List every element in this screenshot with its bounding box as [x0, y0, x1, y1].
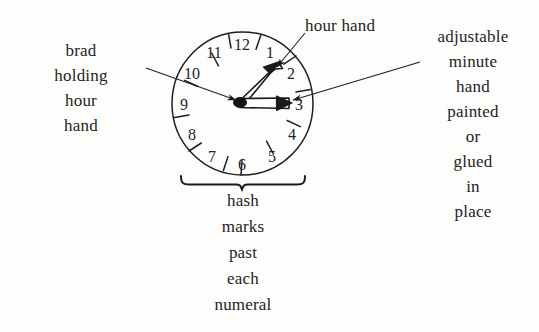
hash-mark — [296, 90, 310, 93]
label-brad-line-1: brad — [22, 42, 140, 67]
label-adjustable-line-6: glued — [412, 153, 534, 178]
clock-numeral-10: 10 — [184, 65, 200, 83]
clock-numeral-8: 8 — [188, 126, 196, 144]
label-hash-line-2: marks — [183, 218, 303, 244]
clock-numeral-11: 11 — [206, 44, 221, 62]
label-adjustable-line-4: painted — [412, 103, 534, 128]
label-adjustable-line-7: in — [412, 178, 534, 203]
label-adjustable-line-5: or — [412, 128, 534, 153]
label-hash-marks: hash marks past each numeral — [183, 192, 303, 322]
clock-numeral-9: 9 — [180, 96, 188, 114]
label-adjustable-line-8: place — [412, 203, 534, 228]
clock-numeral-6: 6 — [238, 156, 246, 174]
label-brad-line-3: hour — [22, 92, 140, 117]
adjustable-leader-line — [293, 62, 420, 100]
label-brad-holding-hour-hand: brad holding hour hand — [22, 42, 140, 142]
label-adjustable-line-1: adjustable — [412, 28, 534, 53]
clock-numeral-12: 12 — [234, 36, 250, 54]
brad-pivot — [234, 98, 247, 108]
hash-mark — [229, 34, 232, 48]
label-hash-line-1: hash — [183, 192, 303, 218]
figure-canvas: 12 1 2 3 4 5 6 7 8 9 10 11 brad holding … — [0, 0, 539, 332]
clock-numeral-4: 4 — [288, 126, 296, 144]
clock-numeral-1: 1 — [266, 44, 274, 62]
label-brad-line-2: holding — [22, 67, 140, 92]
hash-mark — [175, 115, 189, 118]
minute-hand — [240, 96, 292, 111]
label-brad-line-4: hand — [22, 117, 140, 142]
clock-numeral-5: 5 — [268, 148, 276, 166]
clock-numeral-2: 2 — [287, 65, 295, 83]
label-adjustable-line-3: hand — [412, 78, 534, 103]
label-hash-line-5: numeral — [183, 296, 303, 322]
hash-mark — [256, 35, 261, 49]
hash-mark — [189, 143, 201, 151]
label-hash-line-4: each — [183, 270, 303, 296]
label-adjustable-minute-hand: adjustable minute hand painted or glued … — [412, 28, 534, 228]
clock-numeral-3: 3 — [295, 96, 303, 114]
label-hour-hand: hour hand — [305, 17, 375, 34]
hash-marks-brace — [181, 176, 305, 190]
label-adjustable-line-2: minute — [412, 53, 534, 78]
clock-numeral-7: 7 — [208, 148, 216, 166]
label-hash-line-3: past — [183, 244, 303, 270]
hash-mark — [223, 157, 228, 171]
